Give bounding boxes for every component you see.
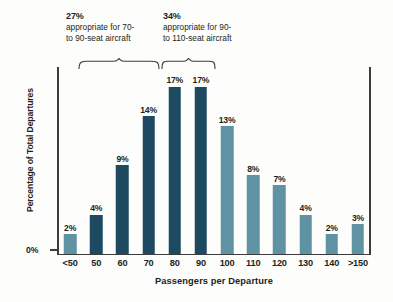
bar-value-label: 2% bbox=[64, 223, 76, 233]
bar[interactable] bbox=[299, 215, 312, 254]
bar-value-label: 8% bbox=[247, 164, 259, 174]
bar[interactable] bbox=[273, 185, 286, 254]
bar-value-label: 2% bbox=[326, 223, 338, 233]
x-axis-tick-label-50: 50 bbox=[83, 258, 109, 268]
bar-group-60: 9% bbox=[109, 67, 135, 254]
annotation-1-percent: 27% bbox=[66, 11, 161, 22]
x-axis-tick-label-50: <50 bbox=[57, 258, 83, 268]
bar[interactable] bbox=[221, 126, 234, 254]
x-axis-tick-label-90: 90 bbox=[188, 258, 214, 268]
bar-group-70: 14% bbox=[136, 67, 162, 254]
bar-group-50: 4% bbox=[83, 67, 109, 254]
annotation-27-percent: 27% appropriate for 70- to 90-seat aircr… bbox=[66, 11, 161, 45]
bar-value-label: 17% bbox=[166, 75, 183, 85]
bar-group-110: 8% bbox=[240, 67, 266, 254]
bar[interactable] bbox=[325, 234, 338, 254]
x-axis-tick-label-100: 100 bbox=[214, 258, 240, 268]
bar[interactable] bbox=[90, 215, 103, 254]
annotation-2-line2: to 110-seat aircraft bbox=[163, 33, 268, 44]
bar[interactable] bbox=[116, 165, 129, 254]
bar-group-100: 13% bbox=[214, 67, 240, 254]
x-axis-tick-label-70: 70 bbox=[136, 258, 162, 268]
bar[interactable] bbox=[64, 234, 77, 254]
bar-group-130: 4% bbox=[293, 67, 319, 254]
x-axis-title: Passengers per Departure bbox=[57, 276, 371, 286]
bar-group-80: 17% bbox=[162, 67, 188, 254]
x-axis-tick-label-80: 80 bbox=[162, 258, 188, 268]
bar-chart-figure: 27% appropriate for 70- to 90-seat aircr… bbox=[0, 0, 393, 302]
bar[interactable] bbox=[142, 116, 155, 254]
y-axis-title: Percentage of Total Departures bbox=[25, 65, 35, 235]
bar-value-label: 13% bbox=[219, 115, 236, 125]
annotation-1-line2: to 90-seat aircraft bbox=[66, 33, 161, 44]
x-axis-tick-label-120: 120 bbox=[266, 258, 292, 268]
bar-value-label: 17% bbox=[193, 75, 210, 85]
bar-group-90: 17% bbox=[188, 67, 214, 254]
x-axis-tick-label-150: >150 bbox=[345, 258, 371, 268]
x-axis-tick-label-130: 130 bbox=[293, 258, 319, 268]
bar[interactable] bbox=[168, 87, 181, 254]
x-axis-tick-label-140: 140 bbox=[319, 258, 345, 268]
bar-group-50: 2% bbox=[57, 67, 83, 254]
annotation-1-line1: appropriate for 70- bbox=[66, 22, 161, 33]
bar-value-label: 9% bbox=[116, 154, 128, 164]
annotation-34-percent: 34% appropriate for 90- to 110-seat airc… bbox=[163, 11, 268, 45]
annotation-2-line1: appropriate for 90- bbox=[163, 22, 268, 33]
bar-value-label: 7% bbox=[273, 174, 285, 184]
bar-value-label: 3% bbox=[352, 213, 364, 223]
bar-group-150: 3% bbox=[345, 67, 371, 254]
bar-group-140: 2% bbox=[319, 67, 345, 254]
bar-group-120: 7% bbox=[266, 67, 292, 254]
annotation-2-percent: 34% bbox=[163, 11, 268, 22]
bar[interactable] bbox=[195, 87, 208, 254]
x-axis-tick-label-60: 60 bbox=[109, 258, 135, 268]
x-axis-tick-label-110: 110 bbox=[240, 258, 266, 268]
plot-area: 2%4%9%14%17%17%13%8%7%4%2%3% bbox=[57, 67, 371, 254]
bar-value-label: 4% bbox=[300, 203, 312, 213]
bar[interactable] bbox=[352, 224, 365, 254]
bar[interactable] bbox=[247, 175, 260, 254]
y-axis-tick-label-0: 0% bbox=[26, 245, 38, 255]
bar-value-label: 14% bbox=[140, 105, 157, 115]
bar-value-label: 4% bbox=[90, 203, 102, 213]
